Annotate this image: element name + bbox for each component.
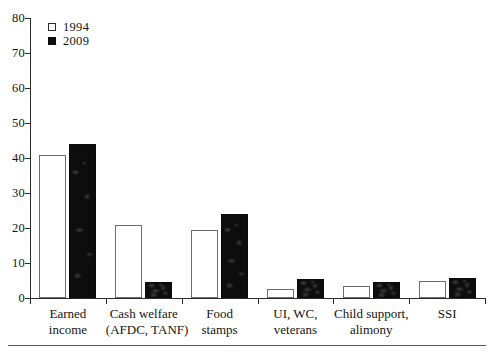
filled-square-icon [48, 37, 56, 45]
y-tick-label: 10 [12, 257, 25, 270]
category-label-line: (AFDC, TANF) [106, 322, 182, 338]
bar-1994-0 [39, 155, 66, 299]
open-square-icon [48, 23, 56, 31]
category-label-line: Earned [30, 306, 106, 322]
y-tick-label: 40 [12, 152, 25, 165]
category-label: Foodstamps [182, 306, 258, 337]
bar-1994-4 [343, 286, 370, 298]
bar-2009-0 [69, 144, 96, 298]
chart-legend: 1994 2009 [48, 20, 89, 48]
category-label-line: UI, WC, [258, 306, 334, 322]
y-tick-label: 30 [12, 187, 25, 200]
bar-chart: 01020304050607080 EarnedincomeCash welfa… [0, 0, 494, 352]
category-label-line: veterans [258, 322, 334, 338]
category-label-line: income [30, 322, 106, 338]
bar-1994-1 [115, 225, 142, 299]
bar-2009-4 [373, 282, 400, 298]
category-label-line: Cash welfare [106, 306, 182, 322]
bar-1994-3 [267, 289, 294, 298]
bar-1994-5 [419, 281, 446, 299]
category-label-line: Child support, [333, 306, 409, 322]
footer-divider [8, 345, 486, 346]
bar-2009-5 [449, 278, 476, 298]
category-label-line: SSI [409, 306, 485, 322]
bar-2009-1 [145, 282, 172, 298]
category-label: Child support,alimony [333, 306, 409, 337]
category-label: UI, WC,veterans [258, 306, 334, 337]
legend-item-1994: 1994 [48, 20, 89, 34]
category-label: Cash welfare(AFDC, TANF) [106, 306, 182, 337]
legend-label-2009: 2009 [63, 35, 89, 48]
category-label-line: stamps [182, 322, 258, 338]
bar-1994-2 [191, 230, 218, 298]
x-tick-mark [182, 298, 183, 304]
x-tick-mark [106, 298, 107, 304]
x-tick-mark [485, 298, 486, 304]
y-tick-label: 80 [12, 12, 25, 25]
x-tick-mark [258, 298, 259, 304]
bar-2009-3 [297, 279, 324, 298]
plot-area [30, 18, 485, 298]
y-tick-label: 0 [18, 292, 25, 305]
x-tick-mark [333, 298, 334, 304]
y-tick-label: 70 [12, 47, 25, 60]
x-tick-mark [30, 298, 31, 304]
category-label: SSI [409, 306, 485, 322]
x-tick-mark [409, 298, 410, 304]
category-label-line: Food [182, 306, 258, 322]
category-label-line: alimony [333, 322, 409, 338]
y-tick-label: 20 [12, 222, 25, 235]
legend-label-1994: 1994 [63, 21, 89, 34]
y-tick-label: 60 [12, 82, 25, 95]
y-tick-label: 50 [12, 117, 25, 130]
category-label: Earnedincome [30, 306, 106, 337]
bar-2009-2 [221, 214, 248, 298]
legend-item-2009: 2009 [48, 34, 89, 48]
